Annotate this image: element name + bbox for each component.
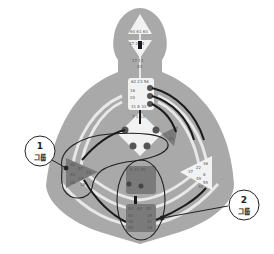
ajna-bottom-gates: 17 11 [132,58,144,63]
root-gate-53: 53 [128,206,134,211]
sp-gate-30: 30 [198,184,204,189]
spleen-gate-57: 57 [78,166,84,171]
root-gate-58: 58 [128,225,134,230]
sp-gate-22: 22 [196,165,202,170]
root-gate-60: 60 [137,206,143,211]
callout-2-label: 그룹 [238,207,251,216]
sp-gate-55: 55 [203,180,209,185]
root-gate-19: 19 [147,225,153,230]
sp-gate-36: 36 [203,161,209,166]
root-gate-38: 38 [128,219,134,224]
throat-gate-20: 20 [130,95,136,100]
root-gate-39: 39 [147,213,153,218]
root-gate-52: 52 [146,206,152,211]
spleen-gate-32: 32 [78,176,84,181]
root-gate-41: 41 [147,219,153,224]
callout-1-label: 그룹 [34,153,47,162]
head-gates: 64 61 63 [130,29,148,34]
throat-top-gates: 62 23 56 [131,79,149,84]
bodygraph-diagram: 64 61 63 47 24 4 17 11 43 62 23 56 16 20… [0,0,274,254]
sp-gate-37: 37 [188,169,194,174]
ajna-mid-gate: 43 [137,64,143,69]
callout-group-1: 1 그룹 [25,136,55,166]
throat-bottom-gates: 31 8 33 [131,104,147,109]
ajna-top-gates: 47 24 4 [129,41,145,46]
spleen-gate-48: 48 [70,162,76,167]
callout-group-2: 2 그룹 [229,190,259,220]
sacral-center: 5 14 29 [126,166,156,194]
ego-gate: 21 [169,136,175,141]
sacral-top-gates: 5 14 29 [130,167,146,172]
callout-1-number: 1 [37,141,43,151]
callout-2-number: 2 [241,195,247,205]
sp-gate-49: 49 [196,176,202,181]
spleen-gate-50: 50 [70,172,76,177]
throat-center: 62 23 56 16 20 31 8 33 [128,78,154,110]
g-top-gates: 7 1 13 [132,114,145,119]
root-gate-54: 54 [128,213,134,218]
spleen-gate-44: 44 [86,170,92,175]
throat-gate-16: 16 [130,88,136,93]
spleen-gate-28: 28 [70,180,76,185]
